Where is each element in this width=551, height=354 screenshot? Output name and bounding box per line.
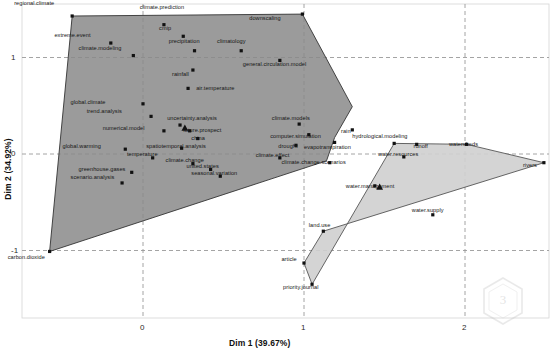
point-label: uncertainty.analysis [167, 116, 217, 122]
data-point [48, 250, 51, 253]
point-label: general.circulation.model [243, 62, 306, 68]
data-point [322, 230, 325, 233]
point-label: land.use [309, 223, 331, 229]
data-point [141, 102, 144, 105]
point-label: watersheds [449, 142, 478, 148]
point-label: rainfall [172, 72, 189, 78]
point-label: regional.climate [14, 1, 54, 7]
point-label: drought [278, 144, 297, 150]
point-label: water.management [346, 184, 394, 190]
point-label: runoff [413, 144, 428, 150]
point-label: priority.journal [283, 285, 319, 291]
point-label: greenhouse.gases [79, 167, 126, 173]
data-point [301, 12, 304, 15]
data-point [298, 122, 301, 125]
point-label: hydrological.modeling [352, 134, 407, 140]
data-point [130, 171, 133, 174]
x-tick-label: 1 [301, 323, 305, 332]
point-label: carbon.dioxide [8, 255, 45, 261]
data-point [178, 123, 181, 126]
data-point [71, 14, 74, 17]
data-point [431, 213, 434, 216]
point-label: air.temperature [196, 86, 234, 92]
data-point [132, 54, 135, 57]
data-point [120, 181, 123, 184]
x-tick-label: 2 [462, 323, 466, 332]
point-label: climate.models [272, 116, 310, 122]
point-label: china [191, 136, 205, 142]
point-label: evapotranspiration [304, 145, 351, 151]
data-point [393, 142, 396, 145]
point-label: global.climate [71, 100, 106, 106]
point-label: rain [341, 129, 351, 135]
data-point [193, 49, 196, 52]
data-point [186, 87, 189, 90]
y-tick-label: -1 [11, 246, 18, 255]
data-point [191, 68, 194, 71]
point-label: precipitation [169, 39, 200, 45]
point-label: scenario.analysis [71, 175, 115, 181]
data-point [351, 128, 354, 131]
point-label: climatology [217, 39, 246, 45]
point-label: climate.effect [256, 153, 290, 159]
point-label: numerical.model [103, 126, 145, 132]
x-axis-title: Dim 1 (39.67%) [229, 338, 290, 348]
point-label: global.warming [63, 144, 101, 150]
x-tick-label: 0 [140, 323, 144, 332]
data-point [162, 129, 165, 132]
point-label: climate.modeling [79, 46, 122, 52]
point-label: water.resources [378, 152, 418, 158]
point-label: trend.analysis [87, 109, 122, 115]
point-label: downscaling [249, 16, 280, 22]
y-tick-label: 1 [11, 53, 15, 62]
data-point [542, 161, 545, 164]
data-point [149, 115, 152, 118]
point-label: temperature [127, 152, 158, 158]
point-label: cmip [159, 26, 171, 32]
point-label: computer.simulation [270, 134, 321, 140]
point-label: future.prospect [183, 128, 221, 134]
point-label: rivers [523, 163, 537, 169]
point-label: climate.change [166, 158, 204, 164]
point-label: extreme.event [54, 33, 90, 39]
y-axis-title: Dim 2 (34.92%) [3, 133, 13, 205]
data-point [240, 49, 243, 52]
point-label: article [281, 257, 296, 263]
point-label: seasonal.variation [191, 171, 237, 177]
data-point [302, 261, 305, 264]
point-label: climate.prediction [140, 5, 184, 11]
point-label: water.supply [412, 208, 444, 214]
point-label: spatiotemporal.analysis [146, 144, 206, 150]
point-label: united.states [186, 164, 218, 170]
biplot-figure: regional.climateclimate.predictiondownsc… [0, 0, 551, 354]
point-label: climate.change.scenarios [281, 160, 345, 166]
